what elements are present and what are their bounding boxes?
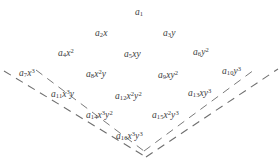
term-a14: a14x3y2 xyxy=(86,110,113,121)
exponent-3: 3 xyxy=(175,109,178,116)
term-a5: a5xy xyxy=(124,50,141,60)
term-a2: a2x xyxy=(95,29,107,39)
term-a6: a6y2 xyxy=(193,47,209,58)
monomial-y: y xyxy=(102,69,106,79)
monomial-xy: xy xyxy=(199,88,208,98)
term-a1: a1 xyxy=(135,8,143,18)
exponent-3: 3 xyxy=(208,87,211,94)
exponent-2: 2 xyxy=(175,69,178,76)
monomial-xy: xy xyxy=(132,49,141,59)
term-a8: a8x2y xyxy=(86,69,106,80)
dashed-boundary-lines xyxy=(0,0,279,167)
monomial-y: y xyxy=(70,89,74,99)
monomial-y: y xyxy=(171,28,175,38)
dashed-line-left-outer xyxy=(4,71,146,157)
term-a3: a3y xyxy=(163,29,175,39)
polynomial-lattice-diagram: a1 a2x a3y a4x2 a5xy a6y2 a7x3 a8x2y a9x… xyxy=(0,0,279,167)
term-a10: a10y3 xyxy=(222,66,241,77)
term-a4: a4x2 xyxy=(58,48,74,59)
monomial-x: x xyxy=(103,28,107,38)
exponent-2: 2 xyxy=(205,46,208,53)
term-a9: a9xy2 xyxy=(158,70,178,81)
coefficient-index: 1 xyxy=(140,10,143,17)
term-a13: a13xy3 xyxy=(188,88,211,99)
exponent-2: 2 xyxy=(109,109,112,116)
monomial-xy: xy xyxy=(166,70,175,80)
exponent-3: 3 xyxy=(139,130,142,137)
exponent-2: 2 xyxy=(70,47,73,54)
term-a15: a15x2y3 xyxy=(152,110,179,121)
term-a16: a16x3y3 xyxy=(116,131,143,142)
exponent-3: 3 xyxy=(31,67,34,74)
exponent-3: 3 xyxy=(238,65,241,72)
term-a11: a11x3y xyxy=(51,89,74,100)
term-a7: a7x3 xyxy=(19,68,35,79)
term-a12: a12x2y2 xyxy=(115,91,142,102)
exponent-2: 2 xyxy=(138,90,141,97)
